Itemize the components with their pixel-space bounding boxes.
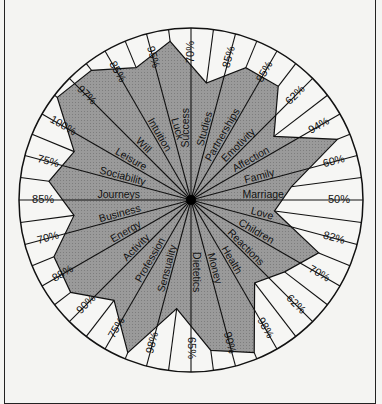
value-label: 85% — [32, 193, 54, 205]
category-label-marriage: Marriage — [243, 188, 285, 200]
value-label: 65% — [186, 337, 198, 359]
category-label-success: Success — [179, 108, 191, 148]
category-label-dietetics: Dietetics — [191, 252, 203, 292]
category-label-journeys: Journeys — [97, 188, 140, 200]
value-label: 50% — [328, 193, 350, 205]
center-hub — [186, 195, 196, 205]
value-label: 70% — [184, 41, 196, 63]
